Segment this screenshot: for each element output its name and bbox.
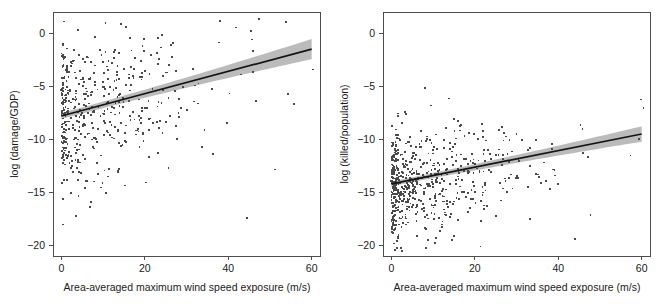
scatter-point	[551, 143, 553, 145]
scatter-point	[395, 153, 397, 155]
scatter-point	[429, 198, 431, 200]
scatter-point	[400, 175, 402, 177]
scatter-point	[482, 130, 484, 132]
scatter-point	[107, 132, 109, 134]
scatter-point	[83, 93, 85, 95]
y-axis-ticks: 0−5−10−15−20	[27, 27, 53, 251]
scatter-point	[104, 110, 106, 112]
scatter-point	[408, 141, 410, 143]
scatter-point	[128, 77, 130, 79]
scatter-point	[498, 149, 500, 151]
scatter-point	[72, 171, 74, 173]
scatter-point	[61, 53, 63, 55]
scatter-point	[428, 183, 430, 185]
scatter-point	[395, 196, 397, 198]
regression-line	[61, 49, 311, 116]
scatter-point	[97, 128, 99, 130]
scatter-point	[445, 127, 447, 129]
scatter-point	[74, 147, 76, 149]
scatter-point	[393, 219, 395, 221]
scatter-point	[219, 20, 221, 22]
scatter-point	[451, 151, 453, 153]
scatter-point	[393, 243, 395, 245]
scatter-point	[482, 194, 484, 196]
scatter-point	[89, 206, 91, 208]
scatter-point	[391, 219, 393, 221]
scatter-point	[481, 123, 483, 125]
scatter-point	[395, 134, 397, 136]
scatter-point	[473, 133, 475, 135]
scatter-point	[78, 103, 80, 105]
scatter-point	[424, 87, 426, 89]
scatter-point	[439, 230, 441, 232]
scatter-point	[418, 199, 420, 201]
scatter-point	[117, 171, 119, 173]
scatter-point	[96, 141, 98, 143]
x-tick-label: 60	[636, 262, 648, 274]
scatter-point	[66, 48, 68, 50]
scatter-point	[394, 148, 396, 150]
scatter-point	[312, 69, 314, 71]
scatter-point	[70, 65, 72, 67]
scatter-point	[407, 168, 409, 170]
scatter-point	[391, 195, 393, 197]
scatter-point	[77, 161, 79, 163]
scatter-point	[478, 160, 480, 162]
scatter-point	[71, 160, 73, 162]
scatter-point	[90, 94, 92, 96]
scatter-point	[84, 158, 86, 160]
scatter-point	[211, 88, 213, 90]
scatter-point	[124, 185, 126, 187]
scatter-point	[107, 69, 109, 71]
scatter-point	[431, 179, 433, 181]
scatter-point	[529, 147, 531, 149]
scatter-point	[62, 224, 64, 226]
scatter-point	[107, 176, 109, 178]
scatter-point	[78, 130, 80, 132]
scatter-point	[78, 171, 80, 173]
scatter-point	[79, 162, 81, 164]
scatter-point	[459, 186, 461, 188]
scatter-point	[446, 200, 448, 202]
x-tick-label: 60	[306, 262, 318, 274]
scatter-point	[409, 195, 411, 197]
scatter-point	[457, 219, 459, 221]
scatter-point	[429, 185, 431, 187]
scatter-point	[62, 132, 64, 134]
scatter-point	[397, 237, 399, 239]
scatter-point	[416, 204, 418, 206]
scatter-point	[412, 152, 414, 154]
scatter-point	[405, 177, 407, 179]
scatter-point	[159, 120, 161, 122]
scatter-point	[551, 148, 553, 150]
scatter-point	[392, 224, 394, 226]
scatter-point	[70, 102, 72, 104]
scatter-point	[83, 115, 85, 117]
scatter-point	[113, 107, 115, 109]
scatter-point	[422, 163, 424, 165]
scatter-point	[68, 76, 70, 78]
scatter-point	[446, 174, 448, 176]
scatter-point	[416, 183, 418, 185]
scatter-point	[549, 188, 551, 190]
scatter-point	[443, 147, 445, 149]
scatter-point	[505, 136, 507, 138]
scatter-point	[116, 74, 118, 76]
scatter-point	[138, 131, 140, 133]
scatter-point	[65, 94, 67, 96]
scatter-point	[498, 129, 500, 131]
scatter-point	[402, 222, 404, 224]
scatter-point	[410, 203, 412, 205]
scatter-point	[391, 125, 393, 127]
scatter-point	[397, 152, 399, 154]
scatter-point	[450, 213, 452, 215]
scatter-point	[77, 139, 79, 141]
scatter-point	[113, 89, 115, 91]
scatter-point	[103, 72, 105, 74]
scatter-point	[75, 96, 77, 98]
scatter-point	[395, 207, 397, 209]
scatter-point	[415, 154, 417, 156]
scatter-point	[445, 189, 447, 191]
scatter-point	[449, 216, 451, 218]
scatter-point	[442, 221, 444, 223]
